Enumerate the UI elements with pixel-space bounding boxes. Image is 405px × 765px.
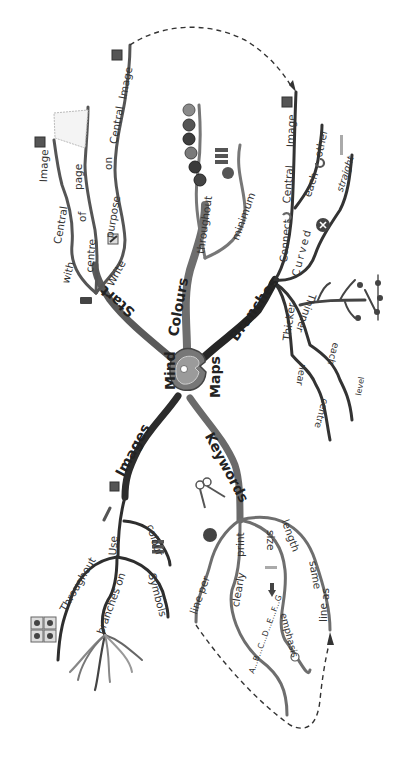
mind-map-canvas <box>0 0 405 765</box>
arrowhead-top <box>289 80 296 92</box>
keys-icon <box>196 478 225 508</box>
sub-branch-use <box>118 497 125 557</box>
dashed-connector-top <box>130 27 292 88</box>
central-image <box>170 349 206 391</box>
sub-branch-write-purpose <box>96 45 130 293</box>
colour-balls-icon <box>183 104 206 186</box>
lightbulb-icon <box>291 653 299 661</box>
roots-icon <box>70 635 142 690</box>
tree-icon <box>300 275 383 321</box>
ruler-icon <box>265 566 277 569</box>
sub-branch-thicker <box>275 283 330 440</box>
branch-images <box>125 396 178 497</box>
paintbrush-icon <box>104 508 110 520</box>
number-one-icon <box>203 528 217 542</box>
sub-branch-with-central-image <box>54 140 96 293</box>
cross-circle-icon <box>316 218 330 232</box>
down-arrow-icon-stem <box>270 583 274 590</box>
dashed-connector-bottom <box>196 625 330 728</box>
image-icon <box>282 97 292 107</box>
sub-branch-line-per <box>196 520 240 622</box>
stack-icon <box>215 148 228 164</box>
image-icon <box>110 482 119 491</box>
battery-icon <box>80 297 92 304</box>
branch-colours <box>186 205 205 362</box>
down-arrow-icon <box>268 590 276 597</box>
arrows-connect-icon <box>283 213 290 221</box>
sub-branch-symbols <box>117 557 168 617</box>
symbols-grid-icon <box>31 617 56 642</box>
sub-branch-branches-on <box>102 557 117 635</box>
branch-keywords <box>190 398 240 520</box>
branch-branches <box>196 280 275 365</box>
stack-icon <box>152 540 164 554</box>
blank-page-icon <box>54 110 88 148</box>
arrowhead-bottom <box>327 632 334 645</box>
ruler-icon <box>340 135 343 155</box>
image-icon <box>112 50 122 60</box>
sub-branch-connect <box>275 92 296 280</box>
sub-branch-throughout-images <box>58 557 117 660</box>
number-three-icon <box>222 167 234 179</box>
image-icon <box>35 137 45 147</box>
